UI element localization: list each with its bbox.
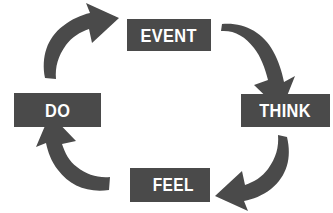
node-feel-label: FEEL	[146, 176, 194, 194]
cycle-diagram: EVENT THINK FEEL DO	[0, 0, 333, 213]
node-event-label: EVENT	[141, 26, 197, 45]
node-event: EVENT	[127, 19, 211, 51]
arrow-do-to-event	[44, 3, 119, 79]
curved-arrow-icon	[215, 135, 289, 211]
node-do: DO	[14, 93, 101, 127]
node-feel: FEEL	[130, 168, 210, 202]
node-think-label: THINK	[260, 101, 312, 120]
curved-arrow-icon	[44, 3, 119, 79]
node-think: THINK	[241, 94, 330, 127]
arrow-think-to-feel	[215, 135, 289, 211]
node-do-label: DO	[45, 101, 70, 120]
